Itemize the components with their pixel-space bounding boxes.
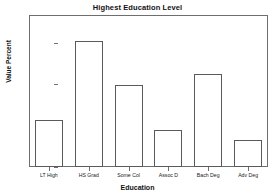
x-tick-mark [129, 167, 130, 171]
x-tick-mark [49, 167, 50, 171]
x-tick-label: Bach Deg [197, 172, 220, 178]
bar[interactable] [115, 85, 143, 167]
y-tick-mark [54, 84, 58, 85]
x-tick-mark [208, 167, 209, 171]
x-tick-mark [248, 167, 249, 171]
y-tick-mark [54, 43, 58, 44]
x-tick-mark [89, 167, 90, 171]
x-tick-label: HS Grad [79, 172, 99, 178]
x-axis-label: Education [0, 184, 275, 191]
bar[interactable] [75, 41, 103, 167]
x-tick-mark [168, 167, 169, 171]
x-tick-label: Some Col [117, 172, 140, 178]
x-tick-label: LT High [40, 172, 58, 178]
bar[interactable] [35, 120, 63, 168]
bar[interactable] [154, 130, 182, 167]
x-tick-label: Assoc D [159, 172, 178, 178]
plot-area: 0.010.020.030.0 [29, 15, 268, 167]
chart-title: Highest Education Level [0, 3, 275, 12]
bar-chart: Highest Education Level Value Percent 0.… [0, 0, 275, 195]
bar[interactable] [234, 140, 262, 167]
bar[interactable] [194, 74, 222, 167]
y-axis-label: Value Percent [5, 7, 12, 117]
x-tick-label: Adv Deg [238, 172, 258, 178]
